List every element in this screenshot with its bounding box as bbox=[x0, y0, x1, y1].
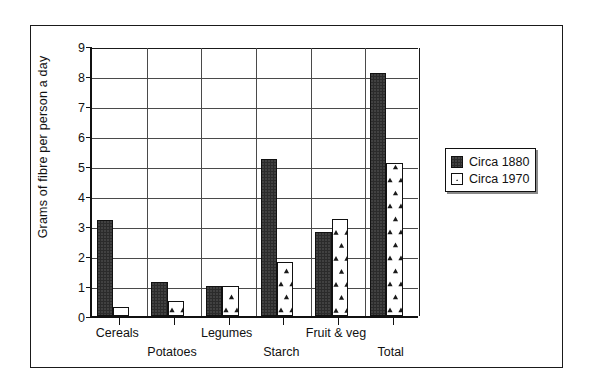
bar bbox=[168, 301, 184, 316]
legend-item: Circa 1880 bbox=[451, 153, 529, 170]
x-tick-mark bbox=[119, 316, 120, 325]
y-tick-label: 0 bbox=[78, 311, 85, 325]
y-tick-label: 8 bbox=[78, 71, 85, 85]
bar-pattern bbox=[114, 308, 128, 315]
x-tick-mark bbox=[174, 316, 175, 325]
y-tick-label: 9 bbox=[78, 41, 85, 55]
chart-legend: Circa 1880 Circa 1970 bbox=[445, 148, 536, 192]
y-tick-label: 6 bbox=[78, 131, 85, 145]
y-tick-mark bbox=[86, 257, 92, 258]
gridline-vertical bbox=[147, 48, 148, 316]
x-axis-label: Starch bbox=[263, 345, 299, 359]
y-tick-label: 7 bbox=[78, 101, 85, 115]
bar bbox=[206, 286, 222, 316]
x-axis-label: Legumes bbox=[201, 326, 252, 340]
triangle-pattern-icon bbox=[452, 178, 462, 188]
plot-area: 0123456789 bbox=[90, 48, 418, 318]
x-axis-label: Cereals bbox=[96, 326, 139, 340]
gridline-vertical bbox=[365, 48, 366, 316]
bar-pattern bbox=[223, 287, 237, 315]
bar bbox=[97, 220, 113, 316]
bar bbox=[151, 282, 167, 317]
legend-swatch-circa-1880 bbox=[451, 156, 463, 168]
y-tick-label: 1 bbox=[78, 281, 85, 295]
x-tick-mark bbox=[393, 316, 394, 325]
gridline-vertical bbox=[419, 48, 420, 316]
y-tick-mark bbox=[86, 47, 92, 48]
y-tick-label: 3 bbox=[78, 221, 85, 235]
legend-label-circa-1880: Circa 1880 bbox=[469, 155, 529, 169]
bar bbox=[261, 159, 277, 317]
legend-item: Circa 1970 bbox=[451, 170, 529, 187]
legend-swatch-circa-1970 bbox=[451, 173, 463, 185]
gridline-vertical bbox=[201, 48, 202, 316]
x-axis-label: Total bbox=[377, 345, 403, 359]
y-axis-title: Grams of fibre per person a day bbox=[36, 27, 50, 267]
y-tick-label: 4 bbox=[78, 191, 85, 205]
x-axis-label: Potatoes bbox=[147, 345, 196, 359]
bar bbox=[277, 262, 293, 316]
bar bbox=[332, 219, 348, 317]
x-tick-mark bbox=[338, 316, 339, 325]
gridline-horizontal bbox=[92, 48, 418, 49]
legend-label-circa-1970: Circa 1970 bbox=[469, 172, 529, 186]
bar-pattern bbox=[387, 164, 401, 315]
y-tick-mark bbox=[86, 227, 92, 228]
bar bbox=[222, 286, 238, 316]
x-tick-mark bbox=[229, 316, 230, 325]
y-tick-mark bbox=[86, 317, 92, 318]
y-tick-mark bbox=[86, 287, 92, 288]
bar bbox=[386, 163, 402, 316]
y-tick-mark bbox=[86, 77, 92, 78]
y-tick-mark bbox=[86, 137, 92, 138]
y-tick-label: 5 bbox=[78, 161, 85, 175]
bar-pattern bbox=[169, 302, 183, 315]
y-tick-mark bbox=[86, 197, 92, 198]
plot-grid: 0123456789 bbox=[92, 48, 418, 316]
y-tick-label: 2 bbox=[78, 251, 85, 265]
bar-pattern bbox=[278, 263, 292, 315]
bar bbox=[113, 307, 129, 316]
bar bbox=[370, 73, 386, 316]
y-tick-mark bbox=[86, 107, 92, 108]
x-axis-label: Fruit & veg bbox=[306, 326, 366, 340]
chart-figure: Grams of fibre per person a day 01234567… bbox=[0, 0, 591, 391]
y-tick-mark bbox=[86, 167, 92, 168]
bar-pattern bbox=[333, 220, 347, 316]
gridline-vertical bbox=[256, 48, 257, 316]
x-tick-mark bbox=[283, 316, 284, 325]
gridline-vertical bbox=[311, 48, 312, 316]
bar bbox=[315, 232, 331, 316]
